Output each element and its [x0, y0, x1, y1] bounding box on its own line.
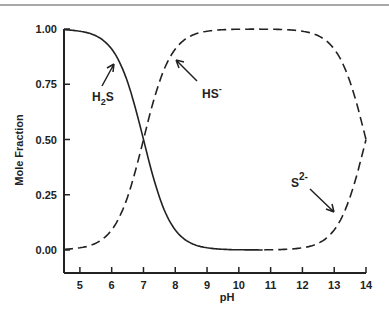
x-ticks: 567891011121314	[77, 267, 373, 291]
x-tick-label: 9	[204, 279, 210, 291]
arrow-icon	[176, 60, 197, 81]
arrow-icon	[310, 189, 334, 212]
annotation-hs-minus: HS-	[176, 60, 222, 101]
y-tick-label: 0.75	[36, 78, 57, 90]
speciation-chart: 0.000.250.500.751.00 567891011121314 Mol…	[0, 0, 389, 324]
x-tick-label: 5	[77, 279, 83, 291]
x-tick-label: 14	[360, 279, 373, 291]
label-s2-minus: S2-	[291, 171, 308, 190]
y-tick-label: 0.50	[36, 134, 57, 146]
x-tick-label: 10	[233, 279, 245, 291]
x-tick-label: 8	[172, 279, 178, 291]
annotation-h2s: H2S	[92, 64, 114, 107]
x-tick-label: 12	[296, 279, 308, 291]
y-axis-title: Mole Fraction	[13, 114, 25, 186]
hs-minus-curve	[64, 29, 366, 249]
h2s-curve	[64, 30, 263, 250]
label-hs-minus: HS-	[202, 84, 222, 101]
x-tick-label: 11	[265, 279, 277, 291]
arrow-icon	[102, 64, 114, 86]
label-h2s: H2S	[92, 90, 114, 107]
y-tick-label: 1.00	[36, 23, 57, 35]
x-tick-label: 7	[140, 279, 146, 291]
y-tick-label: 0.25	[36, 189, 57, 201]
x-tick-label: 6	[109, 279, 115, 291]
y-tick-label: 0.00	[36, 244, 57, 256]
x-axis-title: pH	[220, 291, 235, 303]
x-tick-label: 13	[328, 279, 340, 291]
annotation-s2-minus: S2-	[291, 171, 334, 212]
curves	[64, 29, 366, 250]
axes: 0.000.250.500.751.00 567891011121314	[36, 23, 373, 291]
